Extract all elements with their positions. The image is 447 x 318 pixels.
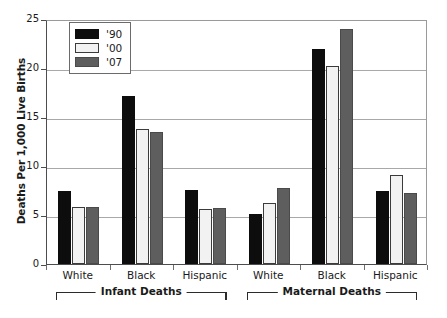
bar [213, 208, 226, 264]
group-label: Maternal Deaths [278, 285, 386, 297]
gridline [47, 119, 426, 120]
bar [277, 188, 290, 264]
legend-label: '07 [106, 57, 122, 67]
bracket-cap-right [225, 292, 226, 300]
gridline [47, 168, 426, 169]
bar [390, 175, 403, 264]
legend-item[interactable]: '07 [75, 55, 122, 69]
bar [326, 66, 339, 264]
bar [185, 190, 198, 264]
gridline [47, 217, 426, 218]
legend-label: '00 [106, 43, 122, 53]
bar [312, 49, 325, 264]
x-category-label: Hispanic [355, 269, 435, 281]
bar [340, 29, 353, 264]
legend-swatch [75, 43, 99, 53]
bar [86, 207, 99, 264]
bar-chart: Deaths Per 1,000 Live Births 0510152025 … [0, 0, 447, 318]
bar [122, 96, 135, 264]
bar [72, 207, 85, 264]
legend-item[interactable]: '00 [75, 41, 122, 55]
bar [263, 203, 276, 264]
group-label: Infant Deaths [96, 285, 187, 297]
bar [150, 132, 163, 264]
bar [58, 191, 71, 265]
legend: '90'00'07 [69, 22, 131, 74]
bar [376, 191, 389, 265]
bar [199, 209, 212, 264]
group-bracket: Infant Deaths [56, 292, 227, 304]
bracket-cap-left [56, 292, 57, 300]
bar [249, 214, 262, 264]
bracket-cap-left [247, 292, 248, 300]
legend-label: '90 [106, 29, 122, 39]
bracket-cap-right [416, 292, 417, 300]
bar [136, 129, 149, 264]
group-bracket: Maternal Deaths [247, 292, 418, 304]
legend-swatch [75, 29, 99, 39]
legend-item[interactable]: '90 [75, 27, 122, 41]
bar [404, 193, 417, 264]
legend-swatch [75, 57, 99, 67]
